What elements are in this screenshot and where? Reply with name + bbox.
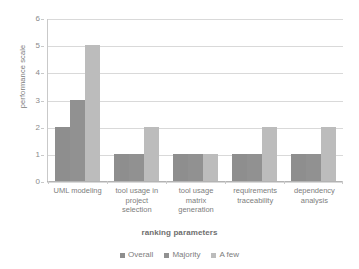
chart-legend: OverallMajorityA few <box>0 251 359 259</box>
legend-item[interactable]: Majority <box>164 251 200 259</box>
legend-item[interactable]: Overall <box>120 251 153 259</box>
gridline <box>47 182 343 183</box>
x-tick-mark <box>342 181 343 184</box>
y-tick-label: 1 <box>36 151 40 159</box>
legend-label: Majority <box>172 251 200 259</box>
bar-group <box>166 19 225 181</box>
legend-label: Overall <box>128 251 153 259</box>
x-tick-mark <box>166 181 167 184</box>
bar-group <box>225 19 284 181</box>
x-axis-label: dependencyanalysis <box>285 186 344 215</box>
bar[interactable] <box>55 127 70 181</box>
bar[interactable] <box>291 154 306 181</box>
bar-chart: performance scale 0123456 UML modelingto… <box>0 0 359 269</box>
x-axis-label: requirementstraceability <box>226 186 285 215</box>
legend-item[interactable]: A few <box>211 251 239 259</box>
bar[interactable] <box>188 154 203 181</box>
y-tick-label: 3 <box>36 97 40 105</box>
x-axis-line <box>47 181 343 182</box>
y-tick-mark <box>41 46 44 47</box>
bar[interactable] <box>232 154 247 181</box>
x-axis-labels: UML modelingtool usage inprojectselectio… <box>48 186 344 215</box>
x-tick-mark <box>284 181 285 184</box>
x-axis-label: tool usage inprojectselection <box>107 186 166 215</box>
x-axis-title: ranking parameters <box>0 228 359 237</box>
y-tick-mark <box>41 73 44 74</box>
y-tick-mark <box>41 155 44 156</box>
bar[interactable] <box>70 100 85 182</box>
bar[interactable] <box>85 45 100 181</box>
bar[interactable] <box>247 154 262 181</box>
x-axis-label: tool usagematrixgeneration <box>166 186 225 215</box>
legend-swatch-icon <box>164 253 169 258</box>
y-tick-label: 0 <box>36 178 40 186</box>
y-tick-mark <box>41 182 44 183</box>
bar[interactable] <box>129 154 144 181</box>
bar[interactable] <box>173 154 188 181</box>
bar[interactable] <box>203 154 218 181</box>
bar-group <box>284 19 343 181</box>
legend-swatch-icon <box>211 253 216 258</box>
bar-group <box>48 19 107 181</box>
bar[interactable] <box>321 127 336 181</box>
bar-group <box>107 19 166 181</box>
y-tick-label: 6 <box>36 15 40 23</box>
bar[interactable] <box>262 127 277 181</box>
y-axis-ticks: 0123456 <box>22 19 44 182</box>
y-tick-label: 4 <box>36 69 40 77</box>
bar[interactable] <box>114 154 129 181</box>
y-tick-label: 2 <box>36 124 40 132</box>
legend-swatch-icon <box>120 253 125 258</box>
x-axis-label: UML modeling <box>48 186 107 215</box>
x-tick-mark <box>107 181 108 184</box>
x-tick-mark <box>225 181 226 184</box>
legend-label: A few <box>219 251 239 259</box>
bar-groups <box>48 19 343 181</box>
y-tick-mark <box>41 101 44 102</box>
plot-area <box>47 19 343 182</box>
x-tick-mark <box>48 181 49 184</box>
bar[interactable] <box>306 154 321 181</box>
y-tick-mark <box>41 128 44 129</box>
y-tick-mark <box>41 19 44 20</box>
y-tick-label: 5 <box>36 42 40 50</box>
bar[interactable] <box>144 127 159 181</box>
